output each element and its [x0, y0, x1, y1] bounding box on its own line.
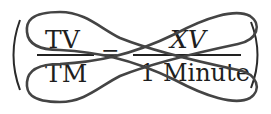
cross-out-loops	[0, 0, 271, 114]
loop-bottom-left-to-top-right	[27, 13, 257, 102]
loop-top-left-to-bottom-right	[27, 12, 257, 101]
equation-diagram: TV TM = XV 1 Minute	[0, 0, 271, 114]
